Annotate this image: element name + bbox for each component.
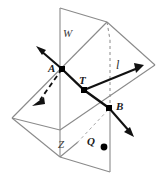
line-dashed-ray bbox=[32, 69, 62, 106]
point-label-b: B bbox=[116, 101, 123, 112]
point-label-t: T bbox=[79, 75, 86, 86]
geometry-diagram: W Z l A T B Q bbox=[0, 0, 161, 175]
point-label-a: A bbox=[48, 63, 55, 74]
diagram-canvas bbox=[0, 0, 161, 175]
point-marker-b bbox=[106, 105, 112, 111]
point-label-q: Q bbox=[87, 136, 95, 147]
point-marker-a bbox=[59, 66, 65, 72]
point-marker-t bbox=[81, 87, 87, 93]
point-marker-q bbox=[101, 144, 108, 151]
plane-label-w: W bbox=[63, 28, 72, 39]
plane-label-z: Z bbox=[58, 139, 64, 150]
line-label-l: l bbox=[116, 59, 119, 71]
line-l-solid bbox=[36, 46, 144, 137]
